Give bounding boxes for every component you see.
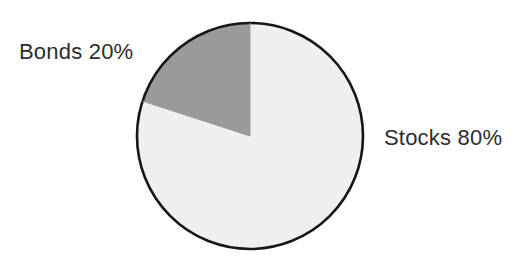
pie-label-bonds: Bonds 20%	[19, 41, 133, 63]
pie-chart-figure: Bonds 20% Stocks 80%	[0, 0, 523, 265]
pie-label-stocks: Stocks 80%	[384, 127, 502, 149]
